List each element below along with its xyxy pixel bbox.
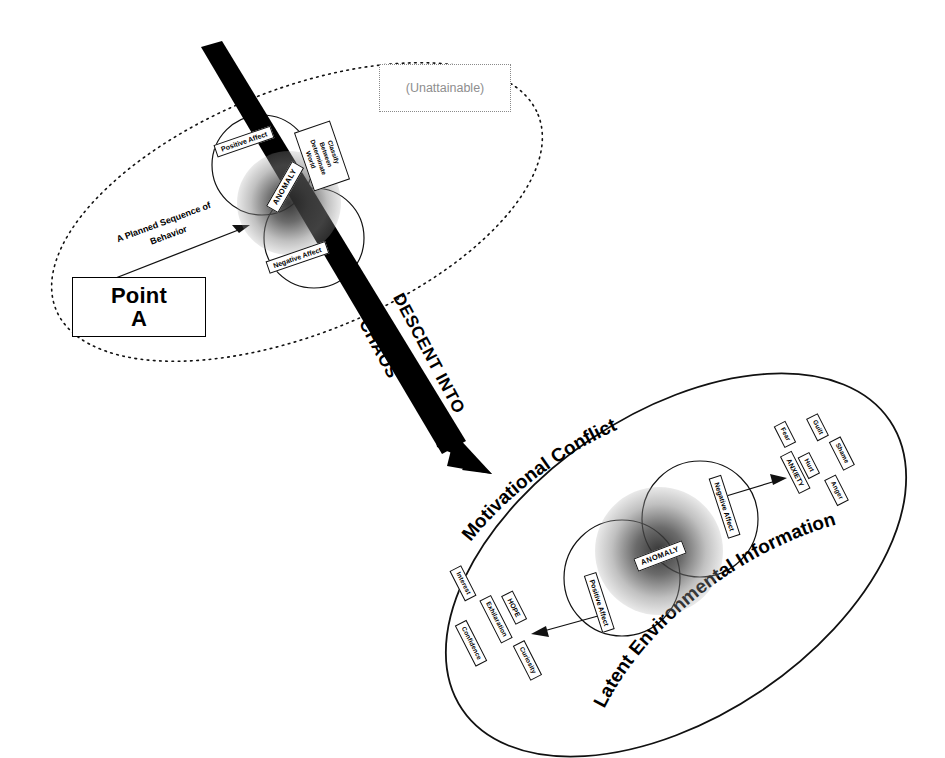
unattainable-box: (Unattainable) bbox=[379, 64, 511, 112]
unattainable-label: (Unattainable) bbox=[406, 81, 485, 95]
point-a-line1: Point bbox=[111, 284, 167, 307]
positive-affect-to-hope-arrow bbox=[531, 593, 598, 637]
point-a-box: Point A bbox=[72, 277, 206, 337]
point-a-line2: A bbox=[131, 307, 147, 330]
latent-environmental-information-caption: Latent Environmental Information bbox=[589, 508, 837, 710]
diagram-canvas: Motivational Conflict Latent Environment… bbox=[0, 0, 945, 758]
motivational-conflict-caption: Motivational Conflict bbox=[457, 414, 620, 545]
